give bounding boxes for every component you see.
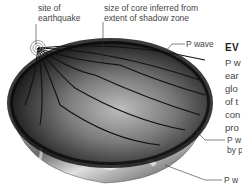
p-wave-bottom-label: P w (224, 175, 238, 185)
body-line: glo (225, 82, 241, 95)
label-line: P w (227, 135, 242, 145)
body-line: ear (225, 69, 241, 82)
p-wave-label: P wave (186, 39, 214, 49)
side-heading: EV (225, 42, 239, 53)
side-body-text: P w ear glo of t con pro (225, 56, 241, 134)
body-line: of t (225, 95, 241, 108)
body-line: pro (225, 121, 241, 134)
label-line: by p (227, 145, 242, 155)
label-line: extent of shadow zone (104, 13, 198, 23)
earth-cutaway-diagram (0, 0, 242, 189)
earthquake-site-label: site of earthquake (38, 3, 81, 23)
body-line: con (225, 108, 241, 121)
label-line: earthquake (38, 13, 81, 23)
p-wave-refracted-label: P w by p (227, 135, 242, 155)
label-line: site of (38, 3, 81, 13)
body-line: P w (225, 56, 241, 69)
core-size-label: size of core inferred from extent of sha… (104, 3, 198, 23)
label-line: size of core inferred from (104, 3, 198, 13)
